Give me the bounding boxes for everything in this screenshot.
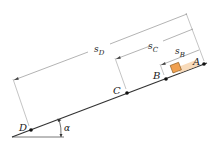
angle-arrowhead-bottom (60, 134, 63, 137)
dim-line-sD-right (110, 14, 187, 44)
incline-diagram: α sD sC sB A B C D (0, 0, 218, 148)
extension-line-D (13, 79, 29, 126)
dim-arrow-sC (116, 56, 121, 59)
dim-line-sD (14, 52, 88, 80)
point-C (125, 91, 129, 95)
angle-label: α (64, 123, 70, 133)
point-label-C: C (113, 85, 121, 96)
point-D (29, 128, 33, 132)
dim-line-sC-right (163, 29, 193, 41)
diagram-canvas: α sD sC sB A B C D (0, 0, 218, 148)
point-B (164, 77, 168, 81)
dim-arrow-sB (161, 62, 166, 65)
dim-label-sC: sC (148, 41, 159, 54)
dim-line-sC (116, 46, 150, 59)
dim-arrow-sD (14, 77, 19, 80)
point-A (202, 62, 206, 66)
point-label-D: D (18, 122, 27, 133)
dim-label-sD: sD (94, 44, 105, 57)
extension-line-B (160, 64, 164, 75)
dim-label-sB: sB (175, 46, 185, 59)
point-label-B: B (152, 70, 160, 81)
incline-line (12, 63, 207, 137)
point-label-A: A (192, 56, 200, 67)
